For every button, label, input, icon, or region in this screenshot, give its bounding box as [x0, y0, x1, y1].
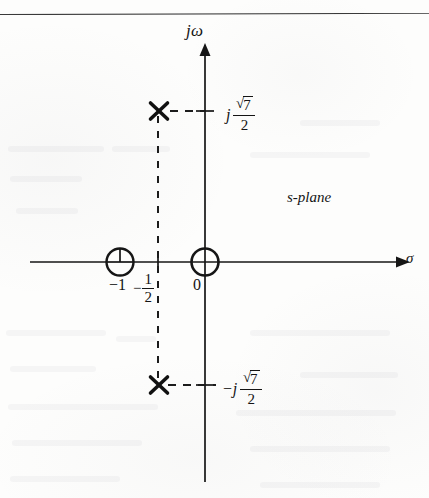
fraction-one-half: 1 2	[142, 272, 154, 305]
radicand: 7	[250, 370, 260, 387]
imaginary-unit-symbol: j	[226, 107, 231, 123]
radical-expression: √ 7	[236, 96, 253, 113]
real-axis-label: σ	[406, 251, 413, 266]
minus-sign: −	[222, 380, 233, 397]
imaginary-axis-label: jω	[186, 22, 203, 39]
real-axis	[30, 257, 410, 268]
negative-imaginary-unit-symbol: −j	[222, 381, 238, 397]
radical-sign: √	[236, 96, 244, 111]
fraction-numerator: √ 7	[242, 370, 261, 389]
radicand: 7	[243, 96, 253, 113]
s-plane-annotation: s-plane	[287, 190, 331, 205]
pole-label-lower: −j √ 7 2	[222, 370, 262, 407]
pole-zero-diagram	[0, 0, 429, 498]
pole-marker-lower	[151, 377, 168, 393]
fraction-denominator: 2	[247, 390, 257, 407]
tick-label-minus-one-half: − 1 2	[133, 272, 154, 305]
fraction-denominator: 2	[142, 289, 154, 305]
fraction-numerator: 1	[142, 272, 154, 288]
fraction-numerator: √ 7	[235, 96, 254, 115]
fraction-sqrt7-over-2: √ 7 2	[233, 96, 255, 133]
tick-label-origin: 0	[193, 277, 201, 293]
fraction-sqrt7-over-2: √ 7 2	[240, 370, 262, 407]
pole-label-upper: j √ 7 2	[226, 96, 255, 133]
radical-expression: √ 7	[243, 370, 260, 387]
tick-label-minus-one: −1	[109, 277, 126, 293]
minus-sign: −	[133, 281, 141, 296]
imaginary-unit-symbol: j	[233, 380, 237, 397]
radical-sign: √	[243, 370, 251, 385]
fraction-denominator: 2	[240, 116, 250, 133]
zero-marker-minus-one	[107, 249, 134, 276]
s-plane-annotation-text: s-plane	[287, 189, 331, 205]
